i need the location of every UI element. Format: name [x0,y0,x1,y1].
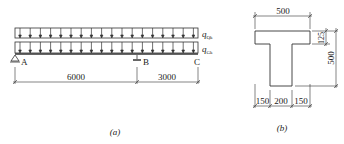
load-label-gk: qGk [202,44,213,55]
figure-canvas: A B C qQk qGk 6000 3000 (a) [0,0,344,144]
load-band-qk [15,28,198,38]
support-b-label: B [143,57,149,67]
bottom-dim-middle: 200 [274,96,288,106]
pin-support-icon [11,55,19,61]
caption-a: (a) [110,127,121,137]
bottom-dim-right: 150 [294,96,308,106]
caption-b: (b) [277,123,288,133]
t-section-shape [255,31,310,86]
load-arrows [19,28,195,53]
span-bc-label: 3000 [158,72,177,82]
support-a-label: A [21,57,28,67]
span-ab-label: 6000 [67,72,86,82]
load-band-gk [15,42,198,53]
load-label-qk: qQk [202,29,213,40]
bottom-dim-left: 150 [256,96,270,106]
flange-width-label: 500 [276,6,290,16]
support-c-label: C [194,57,200,67]
flange-thickness-label: 125 [317,32,326,44]
total-height-label: 500 [326,51,336,65]
